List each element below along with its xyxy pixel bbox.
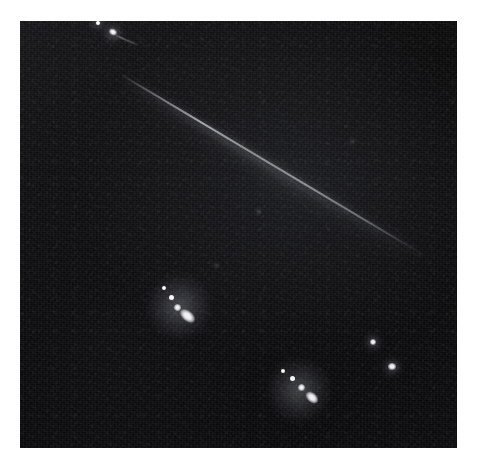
image-caption: Dark astronomical field with a faint dia… [0,0,1,1]
image-canvas: Dark astronomical field with a faint dia… [0,0,479,469]
cluster-b-halo [268,357,330,423]
source-right-lower-halo [382,357,402,377]
cluster-a-core [178,307,197,326]
source-top-edge [96,21,100,25]
source-right-upper-halo [364,333,382,351]
cluster-b-core [304,389,320,405]
plate-tone-overlay [20,21,457,448]
cluster-b-dot-2 [290,376,295,381]
cluster-a-halo [148,273,210,341]
cluster-a-dot-1 [162,286,166,290]
cluster-a-dot-2 [169,295,174,300]
noise-layer-diagonal [20,21,457,448]
diagonal-trail-outer-glow [116,74,428,269]
astronomical-plate [20,21,457,448]
noise-layer-speckle [20,21,457,448]
source-faint-mid [257,210,260,213]
source-right-upper [370,339,376,345]
diagonal-trail [119,73,424,256]
source-faint-low [215,264,218,267]
cluster-b-dot-1 [281,369,285,373]
source-right-lower [388,363,396,370]
source-upper-left [108,27,118,36]
source-faint-right [351,140,354,143]
sky-glow-layer [20,21,457,448]
diagonal-trail-halo [118,73,426,260]
noise-layer-fine [20,21,457,448]
cluster-a-dot-3 [174,304,181,311]
source-top-edge-halo [90,21,106,31]
source-upper-tail [115,34,140,46]
source-upper-left-halo [102,23,124,43]
cluster-b-dot-3 [298,384,305,391]
